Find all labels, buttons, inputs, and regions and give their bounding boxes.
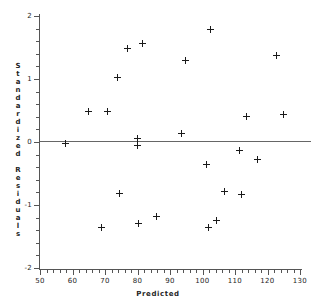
y-axis-tick-minor: [36, 129, 39, 130]
y-axis-tick-label: 2: [10, 13, 32, 20]
y-axis-tick-minor: [36, 167, 39, 168]
x-axis-tick-label: 130: [285, 277, 315, 285]
zero-reference-line: [40, 141, 311, 142]
x-axis-tick-major: [73, 270, 74, 275]
x-axis-tick-label: 60: [58, 277, 88, 285]
y-axis-title-char: i: [12, 126, 24, 134]
x-axis-tick-minor: [66, 270, 67, 273]
x-axis-tick-major: [170, 270, 171, 275]
y-axis-title-char: d: [12, 150, 24, 158]
data-point: [280, 111, 287, 118]
y-axis-title-char: s: [12, 230, 24, 238]
x-axis-tick-major: [268, 270, 269, 275]
x-axis-tick-minor: [79, 270, 80, 273]
data-point: [98, 224, 105, 231]
data-point: [135, 220, 142, 227]
data-point: [203, 161, 210, 168]
x-axis-tick-minor: [131, 270, 132, 273]
data-point: [182, 57, 189, 64]
x-axis-tick-minor: [112, 270, 113, 273]
x-axis-tick-minor: [151, 270, 152, 273]
x-axis-tick-major: [40, 270, 41, 275]
y-axis-title-char: d: [12, 94, 24, 102]
y-axis-title-char: a: [12, 78, 24, 86]
data-point: [254, 156, 261, 163]
y-axis-tick-minor: [36, 155, 39, 156]
x-axis-tick-minor: [229, 270, 230, 273]
y-axis-title: Standardized Residuals: [12, 62, 24, 238]
y-axis-line: [39, 14, 40, 270]
x-axis-tick-label: 50: [25, 277, 55, 285]
x-axis-tick-label: 80: [123, 277, 153, 285]
x-axis-tick-minor: [53, 270, 54, 273]
y-axis-title-char: d: [12, 198, 24, 206]
x-axis-tick-label: 70: [90, 277, 120, 285]
x-axis-tick-minor: [248, 270, 249, 273]
x-axis-tick-minor: [183, 270, 184, 273]
x-axis-tick-minor: [164, 270, 165, 273]
data-point: [273, 52, 280, 59]
x-axis-tick-major: [105, 270, 106, 275]
data-point: [178, 130, 185, 137]
x-axis-tick-minor: [177, 270, 178, 273]
y-axis-tick-minor: [36, 29, 39, 30]
y-axis-title-char: a: [12, 102, 24, 110]
x-axis-tick-minor: [209, 270, 210, 273]
x-axis-tick-label: 110: [220, 277, 250, 285]
data-point: [134, 142, 141, 149]
x-axis-tick-minor: [287, 270, 288, 273]
x-axis-tick-minor: [216, 270, 217, 273]
y-axis-tick-major: [34, 142, 39, 143]
y-axis-tick-minor: [36, 117, 39, 118]
x-axis-tick-label: 100: [188, 277, 218, 285]
x-axis-tick-minor: [86, 270, 87, 273]
y-axis-tick-major: [34, 16, 39, 17]
y-axis-tick-minor: [36, 180, 39, 181]
x-axis-tick-minor: [190, 270, 191, 273]
x-axis-tick-minor: [261, 270, 262, 273]
y-axis-tick-minor: [36, 218, 39, 219]
x-axis-tick-major: [203, 270, 204, 275]
data-point: [104, 108, 111, 115]
y-axis-tick-minor: [36, 66, 39, 67]
y-axis-title-char: S: [12, 62, 24, 70]
y-axis-tick-minor: [36, 192, 39, 193]
y-axis-tick-minor: [36, 92, 39, 93]
y-axis-title-char: e: [12, 142, 24, 150]
y-axis-tick-minor: [36, 243, 39, 244]
x-axis-tick-minor: [60, 270, 61, 273]
y-axis-title-char: R: [12, 166, 24, 174]
x-axis-tick-major: [235, 270, 236, 275]
data-point: [62, 140, 69, 147]
x-axis-tick-minor: [125, 270, 126, 273]
residual-scatter-chart: -2-10125060708090100110120130 Standardiz…: [0, 0, 316, 306]
x-axis-tick-minor: [255, 270, 256, 273]
y-axis-title-char: l: [12, 222, 24, 230]
data-point: [85, 108, 92, 115]
y-axis-title-char: i: [12, 190, 24, 198]
data-point: [236, 147, 243, 154]
y-axis-title-char: e: [12, 174, 24, 182]
y-axis-title-char: r: [12, 110, 24, 118]
x-axis-tick-minor: [157, 270, 158, 273]
data-point: [139, 40, 146, 47]
x-axis-tick-minor: [92, 270, 93, 273]
y-axis-title-char: [12, 158, 24, 166]
x-axis-tick-minor: [281, 270, 282, 273]
data-point: [207, 26, 214, 33]
x-axis-tick-major: [300, 270, 301, 275]
x-axis-tick-major: [138, 270, 139, 275]
y-axis-tick-minor: [36, 230, 39, 231]
y-axis-title-char: n: [12, 86, 24, 94]
y-axis-title-char: s: [12, 182, 24, 190]
x-axis-tick-minor: [196, 270, 197, 273]
y-axis-tick-major: [34, 79, 39, 80]
x-axis-tick-minor: [242, 270, 243, 273]
data-point: [243, 113, 250, 120]
y-axis-title-char: z: [12, 134, 24, 142]
y-axis-tick-minor: [36, 255, 39, 256]
x-axis-tick-minor: [222, 270, 223, 273]
y-axis-tick-minor: [36, 104, 39, 105]
y-axis-title-char: u: [12, 206, 24, 214]
x-axis-tick-label: 120: [253, 277, 283, 285]
